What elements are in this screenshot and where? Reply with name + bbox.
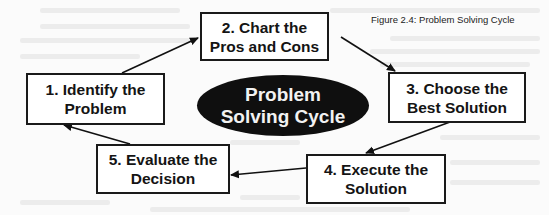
center-ellipse-title: Problem Solving Cycle [197,75,369,136]
step-4-box: 4. Execute the Solution [306,154,446,204]
step-2-line1: 2. Chart the [222,18,307,37]
step-1-line2: Problem [64,99,126,118]
step-2-box: 2. Chart the Pros and Cons [200,12,329,61]
step-4-line1: 4. Execute the [324,160,428,179]
step-4-line2: Solution [345,179,407,198]
arrow-2-to-3 [341,37,395,71]
step-3-box: 3. Choose the Best Solution [388,72,526,123]
center-title-line2: Solving Cycle [221,106,346,128]
step-5-line1: 5. Evaluate the [109,150,218,169]
arrow-5-to-1 [64,125,130,144]
step-5-line2: Decision [131,169,196,188]
center-title-line1: Problem [245,84,321,106]
arrow-3-to-4 [366,122,450,153]
step-5-box: 5. Evaluate the Decision [96,144,230,194]
figure-caption: Figure 2.4: Problem Solving Cycle [371,14,515,25]
arrow-4-to-5 [231,168,306,175]
arrow-1-to-2 [122,38,198,73]
step-1-box: 1. Identify the Problem [26,73,165,125]
step-2-line2: Pros and Cons [210,37,319,56]
step-1-line1: 1. Identify the [46,80,146,99]
step-3-line2: Best Solution [407,98,507,117]
step-3-line1: 3. Choose the [406,79,508,98]
